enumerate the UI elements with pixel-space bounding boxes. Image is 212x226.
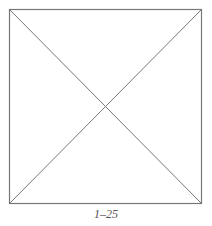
figure-caption: 1–25	[0, 207, 212, 222]
square-diagram	[0, 0, 212, 226]
